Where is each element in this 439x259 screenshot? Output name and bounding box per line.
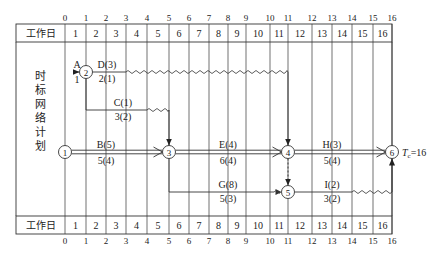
top-column-tick: 7 — [207, 13, 212, 23]
node-number: 5 — [286, 188, 291, 198]
top-day-cell: 15 — [358, 28, 368, 39]
time-scaled-network-diagram: 123456 工作日工作日112233445566778899101011111… — [0, 0, 439, 259]
bottom-column-tick: 3 — [124, 236, 129, 246]
top-column-tick: 13 — [328, 13, 338, 23]
top-day-cell: 6 — [177, 28, 182, 39]
activity-g-name: G(8) — [219, 179, 238, 191]
activity-d-name: D(3) — [98, 59, 117, 71]
activity-g-duration: 5(3) — [220, 193, 237, 205]
top-day-cell: 16 — [378, 28, 388, 39]
bottom-day-cell: 4 — [134, 220, 139, 231]
top-day-cell: 3 — [114, 28, 119, 39]
bottom-day-cell: 5 — [156, 220, 161, 231]
bottom-column-tick: 11 — [284, 236, 293, 246]
activity-b-duration: 5(4) — [98, 155, 115, 167]
bottom-column-tick: 0 — [63, 236, 68, 246]
node-number: 4 — [286, 148, 291, 158]
top-column-tick: 5 — [167, 13, 172, 23]
activity-g-arrowhead — [276, 189, 282, 195]
bottom-day-cell: 7 — [197, 220, 202, 231]
activity-edges — [72, 71, 393, 196]
bottom-day-cell: 3 — [114, 220, 119, 231]
bottom-day-cell: 10 — [253, 220, 263, 231]
activity-h-name: H(3) — [323, 139, 342, 151]
labels: 工作日工作日1122334455667788991010111112121313… — [26, 13, 427, 246]
vertical-title-char: 络 — [35, 111, 46, 124]
bottom-column-tick: 13 — [328, 236, 338, 246]
bottom-row-header-label: 工作日 — [26, 220, 56, 231]
top-column-tick: 8 — [226, 13, 231, 23]
bottom-column-tick: 7 — [207, 236, 212, 246]
activity-e-name: E(4) — [219, 139, 237, 151]
bottom-day-cell: 9 — [235, 220, 240, 231]
diagram-canvas: 123456 工作日工作日112233445566778899101011111… — [0, 0, 439, 259]
top-day-cell: 13 — [317, 28, 327, 39]
activity-e-duration: 6(4) — [220, 155, 237, 167]
top-day-cell: 5 — [156, 28, 161, 39]
bottom-column-tick: 15 — [369, 236, 379, 246]
bottom-day-cell: 11 — [274, 220, 284, 231]
bottom-column-tick: 14 — [348, 236, 358, 246]
vertical-title-char: 时 — [35, 70, 46, 82]
bottom-column-tick: 12 — [308, 236, 317, 246]
top-column-tick: 1 — [84, 13, 89, 23]
top-day-cell: 1 — [73, 28, 78, 39]
bottom-column-tick: 8 — [226, 236, 231, 246]
top-column-tick: 3 — [124, 13, 129, 23]
bottom-column-tick: 1 — [84, 236, 89, 246]
event-node-4: 4 — [282, 146, 295, 159]
top-column-tick: 0 — [63, 13, 68, 23]
bottom-day-cell: 15 — [358, 220, 368, 231]
activity-i-duration: 3(2) — [324, 193, 341, 205]
activity-c-name: C(1) — [114, 97, 132, 109]
node-number: 6 — [390, 148, 395, 158]
top-column-tick: 9 — [244, 13, 249, 23]
total-duration-label: Tc=16 — [402, 147, 426, 160]
top-day-cell: 7 — [197, 28, 202, 39]
bottom-column-tick: 5 — [167, 236, 172, 246]
top-column-tick: 15 — [369, 13, 379, 23]
top-day-cell: 2 — [94, 28, 99, 39]
bottom-day-cell: 12 — [295, 220, 305, 231]
top-day-cell: 12 — [295, 28, 305, 39]
event-node-2: 2 — [80, 66, 93, 79]
bottom-day-cell: 13 — [317, 220, 327, 231]
node-number: 1 — [63, 148, 68, 158]
event-node-1: 1 — [59, 146, 72, 159]
vertical-title-char: 划 — [35, 140, 46, 152]
vertical-title-char: 网 — [35, 98, 46, 110]
top-column-tick: 12 — [308, 13, 317, 23]
vertical-title-char: 标 — [35, 83, 46, 96]
top-day-cell: 8 — [216, 28, 221, 39]
top-column-tick: 16 — [388, 13, 398, 23]
bottom-day-cell: 16 — [378, 220, 388, 231]
node-number: 3 — [167, 148, 172, 158]
top-column-tick: 4 — [145, 13, 150, 23]
activity-e-arrowhead — [273, 147, 282, 157]
top-column-tick: 14 — [348, 13, 358, 23]
event-node-6: 6 — [386, 146, 399, 159]
event-node-5: 5 — [282, 186, 295, 199]
bottom-column-tick: 6 — [187, 236, 192, 246]
vertical-title-char: 计 — [35, 126, 46, 138]
activity-d-duration: 2(1) — [99, 73, 116, 85]
activity-b-name: B(5) — [97, 139, 115, 151]
bottom-column-tick: 9 — [244, 236, 249, 246]
bottom-column-tick: 10 — [266, 236, 276, 246]
activity-a-duration: 1 — [75, 74, 80, 85]
free-float-wave — [352, 191, 392, 194]
free-float-wave — [126, 71, 288, 74]
top-column-tick: 6 — [187, 13, 192, 23]
activity-b-arrowhead — [154, 147, 163, 157]
activity-a-name: A — [73, 59, 81, 70]
free-float-wave — [147, 109, 169, 112]
bottom-column-tick: 2 — [104, 236, 109, 246]
activity-i-name: I(2) — [325, 179, 340, 191]
bottom-column-tick: 4 — [145, 236, 150, 246]
bottom-day-cell: 2 — [94, 220, 99, 231]
top-day-cell: 10 — [253, 28, 263, 39]
activity-h-duration: 5(4) — [324, 155, 341, 167]
bottom-day-cell: 14 — [337, 220, 347, 231]
top-day-cell: 4 — [134, 28, 139, 39]
node-number: 2 — [84, 68, 89, 78]
